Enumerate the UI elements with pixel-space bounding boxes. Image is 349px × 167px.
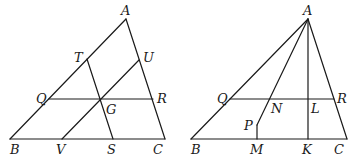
label-S: S: [107, 142, 116, 157]
segment-AC-right: [308, 19, 347, 139]
label-A-left: A: [120, 3, 130, 18]
label-B-left: B: [9, 142, 20, 157]
label-B-right: B: [190, 142, 201, 157]
label-M: M: [249, 142, 264, 157]
label-Q-left: Q: [36, 91, 47, 106]
label-N: N: [270, 101, 283, 116]
label-A-right: A: [302, 3, 312, 18]
label-V: V: [56, 142, 67, 157]
label-L: L: [310, 101, 320, 116]
right-triangle-figure: A Q R N L P B M K C: [190, 3, 347, 157]
left-triangle-figure: A T U Q R G B V S C: [9, 3, 167, 157]
geometry-diagram: A T U Q R G B V S C A Q R N L P B M K C: [0, 0, 349, 167]
label-G: G: [106, 102, 116, 117]
segment-AB-left: [10, 19, 126, 139]
segment-AP: [257, 19, 308, 125]
label-U: U: [143, 50, 155, 65]
label-C-right: C: [334, 142, 344, 157]
label-R-left: R: [156, 91, 167, 106]
label-K: K: [301, 142, 313, 157]
label-R-right: R: [336, 91, 347, 106]
segment-AC-left: [126, 19, 165, 139]
label-P: P: [243, 118, 253, 133]
label-C-left: C: [153, 142, 163, 157]
label-T: T: [74, 50, 84, 65]
label-Q-right: Q: [217, 91, 228, 106]
